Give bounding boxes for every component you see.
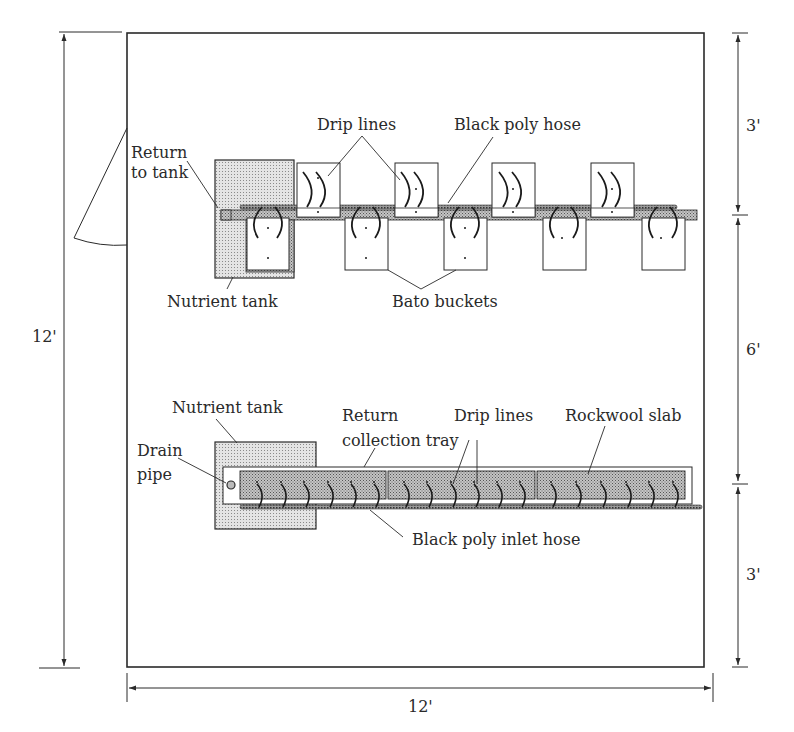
return-to-tank-label-line2: to tank — [131, 163, 188, 182]
room-outline — [127, 33, 704, 667]
rockwool-slab-label: Rockwool slab — [565, 406, 682, 425]
return-to-tank-label-line1: Return — [131, 143, 187, 162]
left-dimension — [28, 32, 122, 668]
left-dimension-label: 12' — [32, 327, 57, 346]
bato-buckets-label: Bato buckets — [392, 292, 498, 311]
rockwool-slab — [537, 471, 685, 499]
top-drip-lines-label: Drip lines — [317, 115, 396, 134]
right-dimension-bottom-label: 3' — [746, 565, 761, 584]
black-poly-hose-label: Black poly hose — [454, 115, 581, 134]
rockwool-slab — [388, 471, 535, 499]
return-collection-tray-label-line1: Return — [342, 406, 398, 425]
right-dimension-middle-label: 6' — [746, 340, 761, 359]
hydroponic-layout-diagram: 12' 3' 6' 3' 12' — [0, 0, 794, 732]
right-dimension-top-label: 3' — [746, 116, 761, 135]
diagram-canvas: 12' 3' 6' 3' 12' — [0, 0, 794, 732]
drain-pipe-label-line1: Drain — [137, 441, 182, 460]
bottom-dimension-label: 12' — [408, 697, 433, 716]
top-nutrient-tank-label: Nutrient tank — [167, 292, 278, 311]
lower-bato-buckets — [246, 218, 685, 272]
top-bato-system — [187, 136, 697, 289]
drain-pipe-icon — [227, 481, 235, 489]
bottom-drip-lines-label: Drip lines — [454, 406, 533, 425]
bottom-nutrient-tank-label: Nutrient tank — [172, 398, 283, 417]
black-poly-inlet-hose — [240, 505, 702, 509]
black-poly-inlet-hose-label: Black poly inlet hose — [412, 530, 580, 549]
return-collection-tray-label-line2: collection tray — [342, 431, 458, 450]
drain-pipe-label-line2: pipe — [137, 465, 172, 484]
door-swing-icon — [74, 128, 127, 245]
